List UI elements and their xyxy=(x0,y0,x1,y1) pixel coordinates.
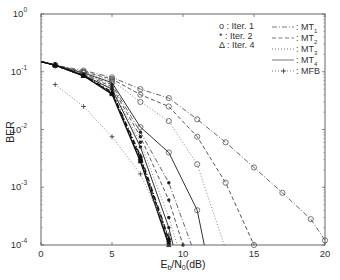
legend-marker-entry: * : Iter. 2 xyxy=(219,31,253,41)
legend-marker-entry: o : Iter. 1 xyxy=(219,21,254,31)
x-tick-label: 15 xyxy=(249,248,260,259)
star-marker xyxy=(167,226,170,229)
y-axis-label: BER xyxy=(4,121,16,143)
star-marker xyxy=(167,181,170,184)
x-tick-label: 20 xyxy=(320,248,331,259)
star-marker xyxy=(167,216,170,219)
star-marker xyxy=(139,135,142,138)
x-tick-label: 0 xyxy=(38,248,43,259)
ber-chart: 05101520 10010-110-210-310-4 Eb/N0(dB) B… xyxy=(0,0,340,280)
legend-marker-entry: Δ : Iter. 4 xyxy=(219,40,255,50)
star-marker xyxy=(139,130,142,133)
star-marker xyxy=(139,145,142,148)
star-marker xyxy=(167,198,170,201)
legend-line-entry: : MFB xyxy=(296,66,320,76)
x-tick-label: 5 xyxy=(109,248,114,259)
legend-markers: o : Iter. 1* : Iter. 2Δ : Iter. 4 xyxy=(219,21,255,50)
